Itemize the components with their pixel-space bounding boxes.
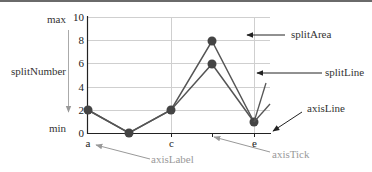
axis-label-label: axisLabel bbox=[151, 153, 194, 165]
svg-text:8: 8 bbox=[79, 34, 85, 46]
svg-text:a: a bbox=[86, 137, 91, 149]
svg-text:c: c bbox=[169, 137, 174, 149]
svg-text:0: 0 bbox=[79, 127, 85, 139]
axis-label-arrow bbox=[96, 145, 150, 159]
axis-line-label: axisLine bbox=[307, 102, 345, 114]
split-area-label: splitArea bbox=[291, 28, 331, 40]
axis-line-arrow bbox=[273, 112, 302, 131]
split-number-label: splitNumber bbox=[11, 65, 66, 77]
axis-diagram: 10 8 6 4 2 0 a c e max splitNumber min s… bbox=[0, 0, 372, 172]
y-axis-labels: 10 8 6 4 2 0 bbox=[73, 11, 85, 139]
max-label: max bbox=[47, 13, 66, 25]
split-line-label: splitLine bbox=[325, 66, 364, 78]
svg-text:10: 10 bbox=[73, 11, 85, 23]
svg-text:6: 6 bbox=[79, 57, 85, 69]
x-axis-labels: a c e bbox=[86, 137, 258, 149]
axis-tick-label: axisTick bbox=[272, 148, 310, 160]
svg-text:2: 2 bbox=[79, 104, 85, 116]
svg-text:4: 4 bbox=[79, 81, 85, 93]
e-rays bbox=[254, 83, 270, 122]
split-lines bbox=[88, 17, 270, 133]
axis-tick-arrow bbox=[214, 137, 270, 152]
min-label: min bbox=[49, 122, 67, 134]
